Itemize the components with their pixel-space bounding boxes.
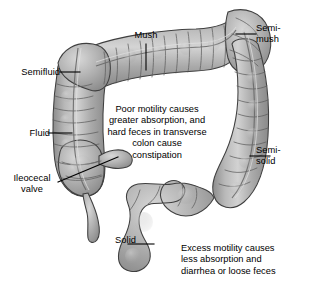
colon-diagram: Semifluid Fluid Ileocecal valve Mush Sem… (0, 0, 312, 287)
label-fluid: Fluid (2, 128, 50, 139)
label-solid: Solid (96, 235, 136, 246)
annotation-poor-motility: Poor motility causes greater absorption,… (92, 104, 222, 161)
label-mush: Mush (125, 30, 167, 41)
label-semi-solid: Semi- solid (256, 145, 310, 166)
annotation-excess-motility: Excess motility causes less absorption a… (181, 243, 311, 277)
label-semi-mush: Semi- mush (256, 23, 310, 44)
label-ileocecal-valve: Ileocecal valve (2, 173, 62, 194)
label-semifluid: Semifluid (2, 67, 60, 78)
